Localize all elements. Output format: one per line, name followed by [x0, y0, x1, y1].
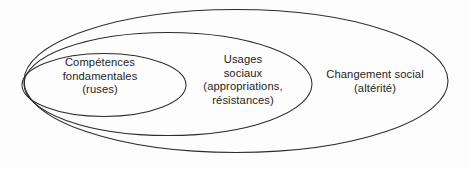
euler-diagram: Compétences fondamentales (ruses) Usages… [0, 0, 469, 169]
label-line: sociaux [183, 67, 303, 81]
label-line: (appropriations, [183, 80, 303, 94]
label-line: résistances) [183, 94, 303, 108]
label-competences-fondamentales: Compétences fondamentales (ruses) [30, 56, 170, 97]
label-line: (ruses) [30, 83, 170, 97]
label-line: (altérité) [310, 82, 440, 96]
label-line: Changement social [310, 68, 440, 82]
label-changement-social: Changement social (altérité) [310, 68, 440, 95]
label-line: Usages [183, 53, 303, 67]
label-usages-sociaux: Usages sociaux (appropriations, résistan… [183, 53, 303, 107]
label-line: fondamentales [30, 70, 170, 84]
label-line: Compétences [30, 56, 170, 70]
